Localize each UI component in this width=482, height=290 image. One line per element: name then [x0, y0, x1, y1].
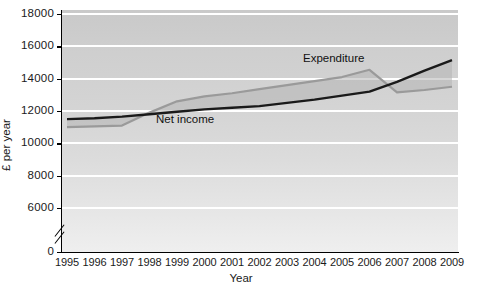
y-axis-title-text: £ per year — [0, 119, 12, 171]
y-tick-mark — [57, 252, 62, 253]
x-tick-label: 1997 — [110, 256, 134, 268]
x-tick-label: 2004 — [302, 256, 326, 268]
series-label-expenditure: Expenditure — [303, 52, 364, 64]
x-axis-title: Year — [0, 272, 482, 284]
x-tick-label: 2007 — [385, 256, 409, 268]
x-tick-label: 2003 — [275, 256, 299, 268]
x-tick-label: 2006 — [357, 256, 381, 268]
y-axis-title: £ per year — [0, 0, 16, 290]
x-tick-label: 2000 — [192, 256, 216, 268]
y-tick-mark — [57, 14, 62, 15]
x-tick-label: 2008 — [412, 256, 436, 268]
x-tick-label: 2002 — [247, 256, 271, 268]
x-tick-label: 1998 — [137, 256, 161, 268]
series-label-net-income: Net income — [156, 113, 214, 125]
x-tick-label: 2005 — [330, 256, 354, 268]
plot-area — [62, 10, 458, 253]
x-tick-label: 2001 — [220, 256, 244, 268]
x-tick-label: 1995 — [55, 256, 79, 268]
y-tick-mark — [57, 176, 62, 177]
y-tick-mark — [57, 208, 62, 209]
x-tick-label: 2009 — [440, 256, 464, 268]
y-tick-mark — [57, 79, 62, 80]
series-layer — [62, 10, 458, 253]
axis-break-icon — [52, 214, 70, 242]
x-tick-label: 1996 — [82, 256, 106, 268]
x-tick-label: 1999 — [165, 256, 189, 268]
line-chart: 0600080001000012000140001600018000 19951… — [0, 0, 482, 290]
y-tick-mark — [57, 143, 62, 144]
y-tick-mark — [57, 46, 62, 47]
y-tick-mark — [57, 111, 62, 112]
x-axis-line — [61, 252, 459, 253]
